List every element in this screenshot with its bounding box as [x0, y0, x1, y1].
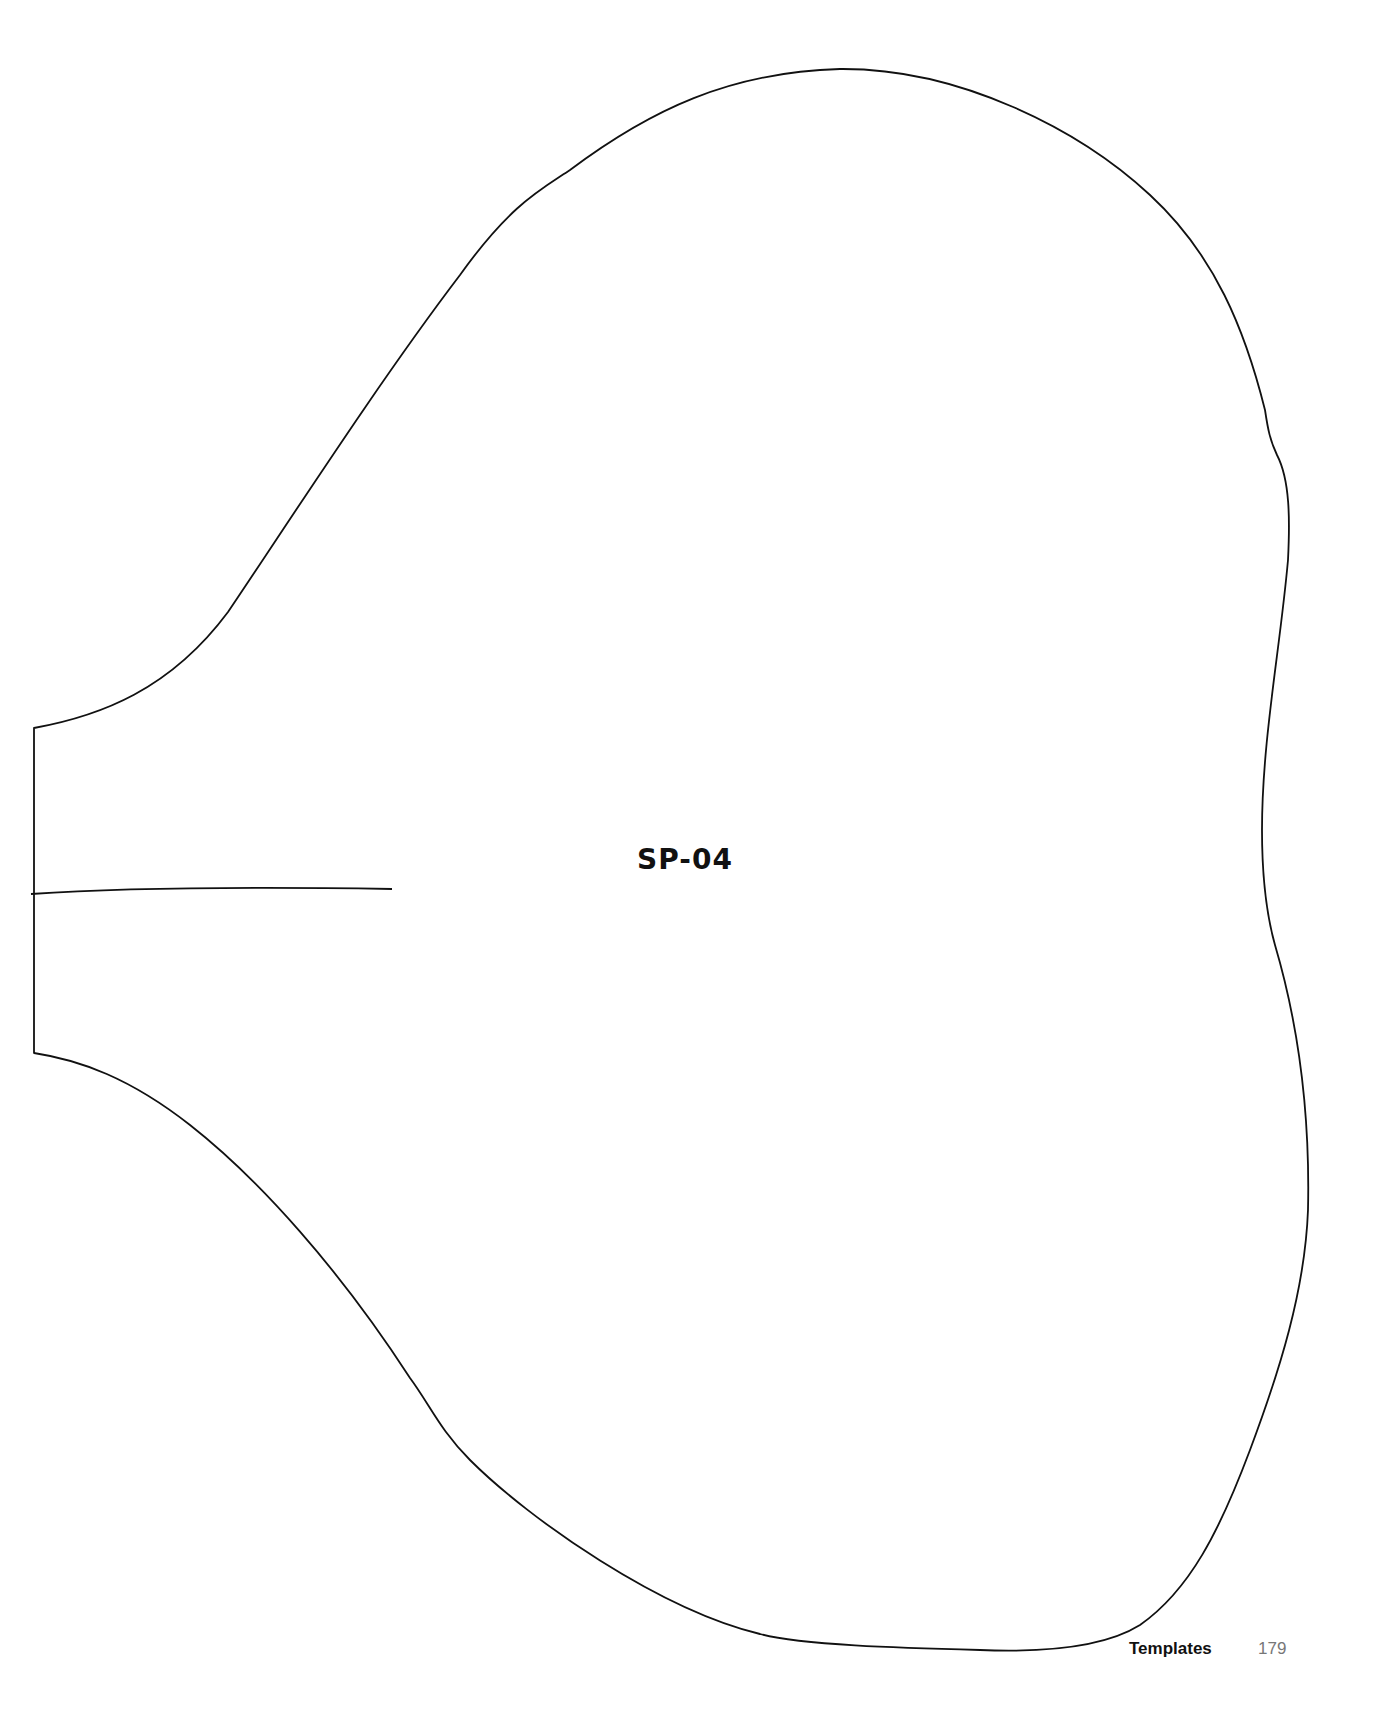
placement-line [31, 888, 392, 894]
footer-page-number: 179 [1258, 1639, 1286, 1659]
piece-label: SP-04 [620, 843, 750, 876]
footer-section-title: Templates [1129, 1639, 1212, 1659]
template-page: SP-04 Templates 179 [0, 0, 1394, 1716]
